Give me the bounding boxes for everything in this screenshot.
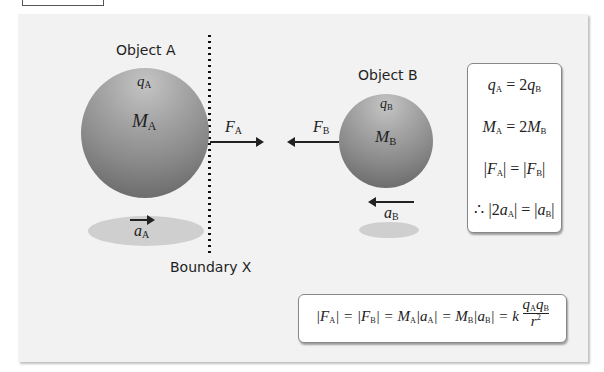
force-b-label: FB [313,118,329,136]
acceleration-b-label: aB [384,204,399,222]
relation-acceleration: ∴ |2aA| = |aB| [468,200,561,219]
header-label-box [22,0,104,6]
force-a-arrow [210,141,258,143]
object-a-charge: qA [137,73,151,90]
force-b-arrow [293,141,339,143]
coulomb-fraction: qAqB r2 [523,297,549,329]
relation-charge: qA = 2qB [468,76,561,94]
main-equation-box: |FA| = |FB| = MA|aA| = MB|aB| = k qAqB r… [298,294,567,343]
object-a-mass: MA [132,110,156,134]
object-b-shadow [359,222,419,238]
relations-box: qA = 2qB MA = 2MB |FA| = |FB| ∴ |2aA| = … [467,63,562,233]
acceleration-b-arrow [374,201,414,203]
acceleration-a-label: aA [134,222,149,240]
object-b-charge: qB [380,96,393,112]
object-a-title: Object A [116,42,176,58]
force-a-label: FA [225,118,242,136]
acceleration-a-arrow [130,219,149,221]
boundary-x-line [208,33,211,253]
object-b-mass: MB [375,127,396,147]
object-b-title: Object B [358,67,418,83]
main-equation: |FA| = |FB| = MA|aA| = MB|aB| = k qAqB r… [299,307,566,329]
relation-force: |FA| = |FB| [468,160,561,178]
boundary-x-label: Boundary X [170,259,251,275]
relation-mass: MA = 2MB [468,118,561,136]
